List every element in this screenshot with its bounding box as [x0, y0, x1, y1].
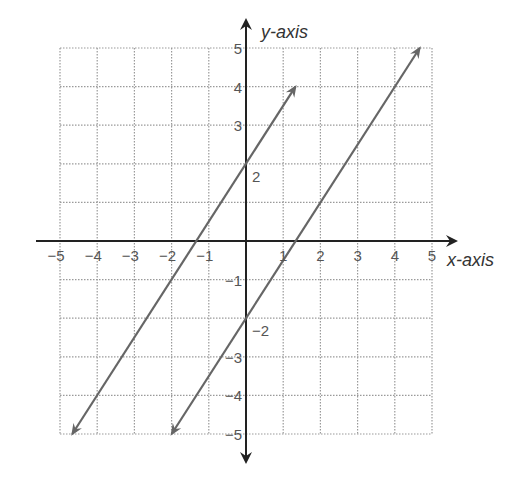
y-tick-label: 4 — [234, 79, 242, 96]
x-tick-label: −2 — [159, 247, 176, 264]
x-tick-label: 3 — [353, 247, 361, 264]
x-axis-title: x-axis — [446, 250, 494, 270]
intercept-label: 2 — [252, 168, 260, 185]
x-tick-label: 2 — [316, 247, 324, 264]
y-tick-label: −1 — [225, 272, 242, 289]
coordinate-plane: −5−4−3−2−112345543−1−3−4−52−2 x-axis y-a… — [0, 0, 530, 477]
y-tick-label: 3 — [234, 117, 242, 134]
x-tick-label: −3 — [122, 247, 139, 264]
line-1 — [72, 87, 295, 434]
x-tick-label: 4 — [391, 247, 399, 264]
intercept-label: −2 — [252, 322, 269, 339]
y-tick-label: −5 — [225, 426, 242, 443]
y-tick-label: −3 — [225, 349, 242, 366]
x-tick-label: 1 — [279, 247, 287, 264]
x-tick-label: 5 — [428, 247, 436, 264]
y-tick-label: 5 — [234, 40, 242, 57]
x-tick-label: −4 — [85, 247, 102, 264]
x-tick-label: −1 — [196, 247, 213, 264]
x-tick-label: −5 — [47, 247, 64, 264]
y-tick-label: −4 — [225, 387, 242, 404]
y-axis-title: y-axis — [259, 22, 308, 42]
